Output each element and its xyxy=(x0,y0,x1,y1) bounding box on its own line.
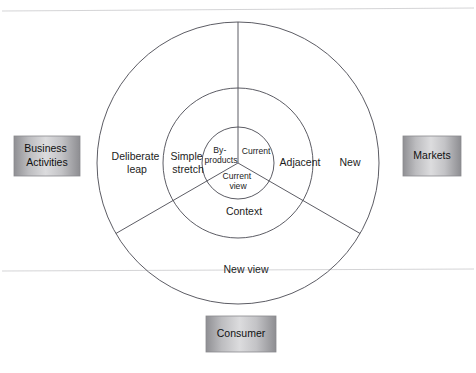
divider-down-right xyxy=(238,163,360,234)
middle-sector-label-context: Context xyxy=(226,205,262,217)
outer-sector-label-new: New xyxy=(339,156,360,168)
inner-sector-label-by-products: By- products xyxy=(205,145,238,165)
inner-sector-label-current-view: Current view xyxy=(222,171,253,191)
axis-box-business-activities-label: Business Activities xyxy=(24,142,70,168)
axis-box-markets[interactable]: Markets xyxy=(403,136,461,176)
axis-box-consumer[interactable]: Consumer xyxy=(206,316,276,352)
middle-sector-label-adjacent: Adjacent xyxy=(280,156,321,168)
page-rule-top xyxy=(2,8,474,11)
diagram-root: By- products Current Current view Simple… xyxy=(0,0,476,373)
middle-sector-label-simple-stretch: Simple stretch xyxy=(170,150,205,175)
inner-sector-label-current: Current xyxy=(242,146,271,156)
axis-box-business-activities[interactable]: Business Activities xyxy=(14,136,80,176)
innovation-space-diagram: By- products Current Current view Simple… xyxy=(0,0,476,373)
axis-box-consumer-label: Consumer xyxy=(217,327,266,339)
outer-sector-label-new-view: New view xyxy=(224,263,269,275)
outer-sector-label-deliberate-leap: Deliberate leap xyxy=(112,150,163,175)
axis-box-markets-label: Markets xyxy=(413,149,450,161)
